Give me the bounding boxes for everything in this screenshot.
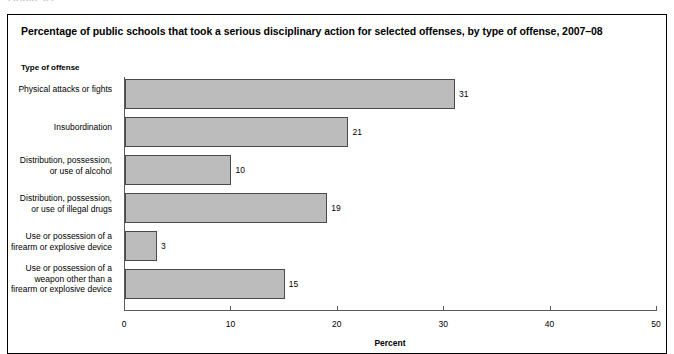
x-axis-line bbox=[124, 310, 656, 311]
category-label: Physical attacks or fights bbox=[0, 84, 112, 95]
bar-alcohol[interactable] bbox=[125, 155, 231, 185]
x-axis-title: Percent bbox=[124, 338, 656, 348]
y-axis-title: Type of offense bbox=[21, 63, 80, 72]
category-label-group: Physical attacks or fights Insubordinati… bbox=[0, 77, 112, 311]
x-tick-label-1: 10 bbox=[226, 319, 235, 329]
x-tick-5 bbox=[656, 306, 657, 311]
bar-value-label: 10 bbox=[236, 165, 245, 175]
x-tick-label-4: 40 bbox=[545, 319, 554, 329]
x-tick-1 bbox=[230, 306, 231, 311]
x-tick-0 bbox=[124, 306, 125, 311]
bar-value-label: 15 bbox=[289, 279, 298, 289]
category-label: Distribution, possession, or use of alco… bbox=[0, 155, 112, 176]
x-tick-label-0: 0 bbox=[122, 319, 127, 329]
bar-chart-plot-area: 0 10 20 30 40 50 Physical attacks or fig… bbox=[124, 77, 656, 311]
x-tick-label-5: 50 bbox=[651, 319, 660, 329]
category-label: Distribution, possession, or use of ille… bbox=[0, 193, 112, 214]
x-tick-label-2: 20 bbox=[332, 319, 341, 329]
x-tick-2 bbox=[337, 306, 338, 311]
bar-value-label: 21 bbox=[353, 127, 362, 137]
bar-weapon-other[interactable] bbox=[125, 269, 285, 299]
figure-panel: Percentage of public schools that took a… bbox=[7, 14, 667, 354]
x-tick-label-3: 30 bbox=[438, 319, 447, 329]
bar-illegal-drugs[interactable] bbox=[125, 193, 327, 223]
category-label: Use or possession of a weapon other than… bbox=[0, 263, 112, 295]
x-tick-3 bbox=[443, 306, 444, 311]
bar-physical-attacks[interactable] bbox=[125, 79, 455, 109]
page-title: Percentage of public schools that took a… bbox=[21, 25, 651, 37]
category-label: Use or possession of a firearm or explos… bbox=[0, 231, 112, 252]
bar-firearm[interactable] bbox=[125, 231, 157, 261]
x-tick-4 bbox=[550, 306, 551, 311]
bar-insubordination[interactable] bbox=[125, 117, 348, 147]
bar-value-label: 19 bbox=[331, 203, 340, 213]
bar-value-label: 31 bbox=[459, 89, 468, 99]
figure-number-label: FIGURE 8.2 bbox=[8, 0, 56, 1]
bar-value-label: 3 bbox=[161, 241, 166, 251]
category-label: Insubordination bbox=[0, 122, 112, 133]
